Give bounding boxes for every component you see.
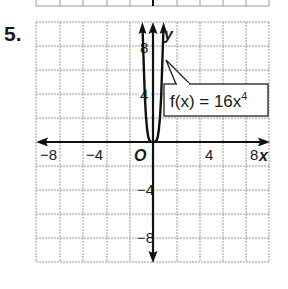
- x-tick-label: −4: [86, 146, 103, 163]
- origin-label: O: [134, 147, 147, 164]
- x-tick-label: 4: [205, 146, 213, 163]
- y-tick-label: −4: [137, 181, 154, 198]
- x-tick-label: −8: [40, 146, 57, 163]
- function-callout: f(x) = 16x4: [164, 60, 268, 116]
- function-label: f(x) = 16x4: [170, 90, 247, 111]
- x-axis-label: x: [258, 147, 269, 164]
- x-tick-label: 8: [250, 146, 258, 163]
- coordinate-graph: −8 −4 4 8 x O 8 4 −4 −8 y f(x) = 16x4: [0, 0, 288, 289]
- y-tick-label: −8: [137, 229, 154, 246]
